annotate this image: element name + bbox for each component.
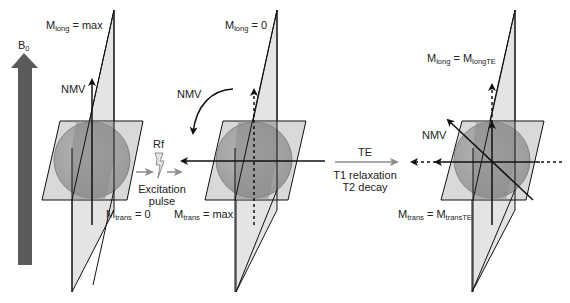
b0-label: B0 <box>18 40 30 53</box>
panel3-mtrans-label: Mtrans = MtransTE <box>398 209 472 222</box>
panel2-mtrans-label: Mtrans = max <box>174 209 233 222</box>
panel3-nmv-label: NMV <box>422 130 446 141</box>
panel2-nmv-label: NMV <box>177 89 201 100</box>
te-label: TE <box>335 147 395 158</box>
panel-after-pulse <box>182 10 325 292</box>
diagram-canvas <box>0 0 570 303</box>
t1-relaxation-label: T1 relaxation <box>325 170 405 181</box>
rf-label: Rf <box>153 139 164 150</box>
panel-initial <box>42 10 143 292</box>
panel1-mtrans-label: Mtrans = 0 <box>106 209 151 222</box>
panel1-nmv-label: NMV <box>61 84 85 95</box>
t2-decay-label: T2 decay <box>325 182 405 193</box>
lightning-bolt-icon <box>155 153 164 178</box>
panel3-mlong-label: Mlong = MlongTE <box>427 53 496 66</box>
panel1-mlong-label: Mlong = max <box>46 20 103 33</box>
excitation-pulse-group <box>136 153 181 178</box>
mri-magnetization-diagram: B0 Mlong = max NMV Mtrans = 0 Rf Excitat… <box>0 0 570 303</box>
b0-arrow-icon <box>11 53 38 265</box>
excitation-label-line2: pulse <box>137 196 187 207</box>
excitation-label-line1: Excitation <box>137 184 187 195</box>
panel2-mlong-label: Mlong = 0 <box>225 20 267 33</box>
